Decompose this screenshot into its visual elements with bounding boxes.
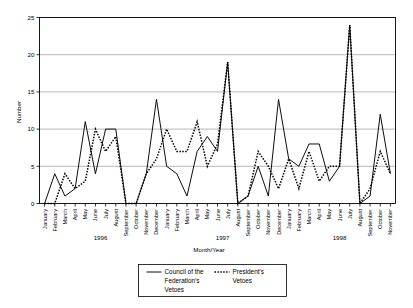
y-tick-label: 5	[31, 163, 35, 170]
x-month-label: July	[225, 209, 231, 219]
x-month-label: April	[194, 209, 200, 220]
x-month-label: April	[316, 209, 322, 220]
x-month-label: May	[326, 209, 332, 220]
legend-label-council: Vetoes	[165, 286, 185, 293]
x-month-label: October	[133, 209, 139, 229]
x-month-label: March	[184, 209, 190, 225]
x-month-label: January	[164, 209, 170, 229]
x-month-label: May	[204, 209, 210, 220]
x-month-label: October	[255, 209, 261, 229]
legend-label-council: Council of the	[165, 268, 205, 275]
x-month-label: August	[113, 209, 119, 227]
x-month-label: December	[153, 209, 159, 235]
legend-label-council: Federation's	[165, 277, 200, 284]
x-month-label: September	[245, 209, 251, 236]
x-month-label: November	[143, 209, 149, 235]
chart-figure: 0510152025 JanuaryFebruaryMarchAprilMayJ…	[0, 0, 413, 308]
x-month-label: July	[347, 209, 353, 219]
x-month-label: June	[92, 209, 98, 221]
x-month-label: February	[52, 209, 58, 232]
x-month-label: June	[215, 209, 221, 221]
x-month-label: June	[337, 209, 343, 221]
y-tick-label: 20	[28, 51, 35, 58]
x-month-label: August	[357, 209, 363, 227]
y-tick-label: 0	[31, 200, 35, 207]
x-month-label: November	[265, 209, 271, 235]
series-line-council	[45, 25, 391, 204]
legend-label-president: President's	[233, 268, 264, 275]
x-month-label: January	[286, 209, 292, 229]
x-axis-year-labels: 199619971998	[94, 234, 347, 241]
legend-label-president: Vetoes	[233, 277, 253, 284]
x-axis-title: Month/Year	[193, 246, 224, 253]
plot-frame	[40, 18, 396, 204]
x-month-label: March	[306, 209, 312, 225]
series-line-president	[45, 25, 391, 204]
x-month-label: February	[296, 209, 302, 232]
y-axis-title: Number	[15, 101, 22, 123]
y-tick-label: 10	[28, 125, 35, 132]
x-month-label: September	[123, 209, 129, 236]
x-month-label: April	[72, 209, 78, 220]
x-axis-month-labels: JanuaryFebruaryMarchAprilMayJuneJulyAugu…	[42, 209, 394, 237]
x-month-label: February	[174, 209, 180, 232]
line-chart: 0510152025 JanuaryFebruaryMarchAprilMayJ…	[0, 0, 413, 308]
x-month-label: September	[367, 209, 373, 236]
x-year-label: 1996	[94, 234, 108, 241]
x-month-label: March	[62, 209, 68, 225]
y-tick-label: 15	[28, 88, 35, 95]
x-month-label: November	[387, 209, 393, 235]
legend: Council of theFederation'sVetoesPresiden…	[139, 265, 287, 297]
plot-border	[40, 18, 396, 204]
x-month-label: May	[82, 209, 88, 220]
x-month-label: January	[42, 209, 48, 229]
x-month-label: August	[235, 209, 241, 227]
x-year-label: 1998	[333, 234, 347, 241]
legend-border	[139, 265, 287, 297]
x-month-label: July	[103, 209, 109, 219]
x-month-label: October	[377, 209, 383, 229]
series-lines	[45, 25, 391, 204]
y-tick-label: 25	[28, 14, 35, 21]
x-month-label: December	[276, 209, 282, 235]
x-year-label: 1997	[216, 234, 230, 241]
y-axis-ticks: 0510152025	[28, 14, 40, 207]
